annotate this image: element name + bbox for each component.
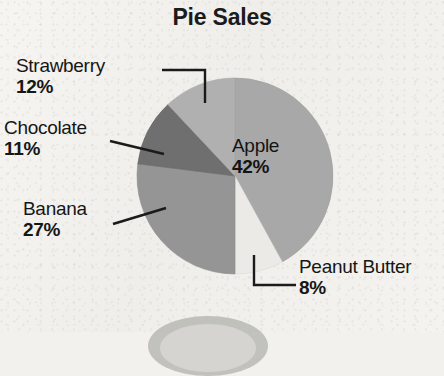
slice-label-chocolate-percent: 11% bbox=[4, 139, 87, 160]
pie-slice-banana bbox=[137, 164, 235, 274]
slice-label-peanut-butter-percent: 8% bbox=[299, 278, 411, 299]
slice-label-banana: Banana 27% bbox=[23, 199, 87, 240]
slice-label-apple: Apple 42% bbox=[232, 136, 279, 177]
slice-label-strawberry: Strawberry 12% bbox=[16, 56, 105, 97]
slice-label-chocolate: Chocolate 11% bbox=[4, 118, 87, 159]
slice-label-strawberry-category: Strawberry bbox=[16, 56, 105, 77]
slice-label-peanut-butter-category: Peanut Butter bbox=[299, 257, 411, 278]
slice-label-strawberry-percent: 12% bbox=[16, 77, 105, 98]
slice-label-banana-percent: 27% bbox=[23, 220, 87, 241]
slice-label-apple-percent: 42% bbox=[232, 157, 279, 178]
slice-label-banana-category: Banana bbox=[23, 199, 87, 220]
slice-label-peanut-butter: Peanut Butter 8% bbox=[299, 257, 411, 298]
slice-label-chocolate-category: Chocolate bbox=[4, 118, 87, 139]
slice-label-apple-category: Apple bbox=[232, 136, 279, 157]
